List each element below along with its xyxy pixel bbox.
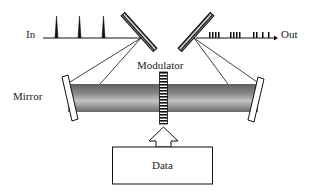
output-coupler-mirror: [178, 12, 214, 51]
up-arrow-icon: [149, 127, 178, 147]
input-coupler-mirror: [121, 12, 157, 51]
output-pulse-train: [196, 32, 278, 41]
modulator-element: [160, 72, 168, 124]
modulator-label: Modulator: [137, 59, 184, 71]
output-label: Out: [281, 28, 298, 40]
data-label: Data: [152, 159, 173, 171]
input-label: In: [26, 28, 36, 40]
laser-modulator-diagram: In Out Mirror Modulator Data: [0, 0, 315, 194]
mirror-label: Mirror: [13, 90, 43, 102]
